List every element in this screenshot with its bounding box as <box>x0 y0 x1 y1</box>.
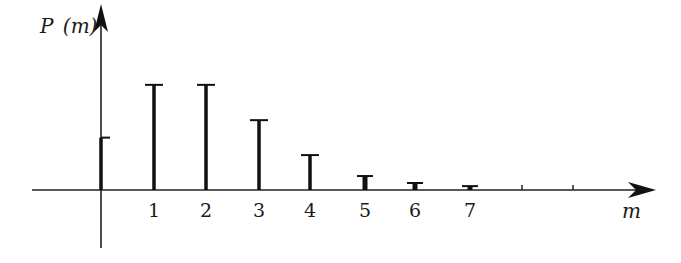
stem-m3 <box>250 120 268 190</box>
x-tick-label-2: 2 <box>200 199 212 221</box>
stem-m1 <box>145 85 163 190</box>
stem-m0 <box>101 138 110 190</box>
x-tick-label-5: 5 <box>359 199 371 221</box>
y-axis-label: P (m) <box>39 14 97 38</box>
tick-labels-group: 1234567 <box>148 199 476 221</box>
y-axis-label-p: P <box>39 14 54 38</box>
stem-m5 <box>357 176 373 190</box>
x-tick-label-7: 7 <box>464 199 476 221</box>
x-tick-label-1: 1 <box>148 199 160 221</box>
stem-m4 <box>301 155 319 190</box>
stems-group <box>101 85 573 190</box>
stem-m6 <box>407 183 423 190</box>
x-tick-label-3: 3 <box>253 199 265 221</box>
x-axis-label: m <box>622 199 641 223</box>
stem-m2 <box>197 85 215 190</box>
x-tick-label-6: 6 <box>409 199 421 221</box>
x-tick-label-4: 4 <box>304 199 316 221</box>
y-axis-label-m: (m) <box>63 14 98 38</box>
stem-plot: 1234567 P (m) m <box>0 0 681 263</box>
